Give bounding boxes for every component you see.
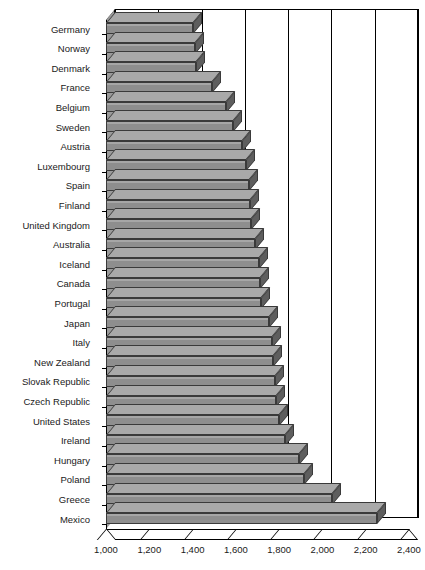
- category-label: Spain: [66, 180, 90, 191]
- category-tick: [102, 113, 106, 114]
- category-label: Czech Republic: [23, 396, 90, 407]
- category-tick: [102, 524, 106, 525]
- bar-top-face: [106, 208, 260, 219]
- category-tick: [102, 250, 106, 251]
- category-tick: [102, 132, 106, 133]
- bar-top-face: [106, 91, 235, 102]
- category-tick: [102, 93, 106, 94]
- category-label: Hungary: [54, 455, 90, 466]
- category-label: Germany: [51, 24, 90, 35]
- value-tick-label: 1,200: [127, 544, 171, 555]
- category-label: Ireland: [61, 435, 90, 446]
- gridline-x: [375, 9, 376, 518]
- value-tick-label: 1,000: [84, 544, 128, 555]
- category-tick: [102, 348, 106, 349]
- category-label: Greece: [59, 494, 90, 505]
- bar-top-face: [106, 189, 259, 200]
- category-label: Italy: [73, 337, 90, 348]
- bar-top-face: [106, 12, 202, 23]
- bar-top-face: [106, 51, 205, 62]
- category-tick: [102, 54, 106, 55]
- category-tick: [102, 466, 106, 467]
- category-label: Portugal: [55, 298, 90, 309]
- bar-top-face: [106, 287, 270, 298]
- category-tick: [102, 172, 106, 173]
- category-tick: [102, 485, 106, 486]
- value-tick-label: 1,400: [171, 544, 215, 555]
- bar-top-face: [106, 169, 258, 180]
- bar-front-face: [106, 513, 377, 524]
- bar-top-face: [106, 149, 255, 160]
- bar-top-face: [106, 385, 285, 396]
- value-tick-label: 1,600: [214, 544, 258, 555]
- category-label: Japan: [64, 318, 90, 329]
- category-tick: [102, 152, 106, 153]
- category-axis-labels: GermanyNorwayDenmarkFranceBelgiumSwedenA…: [0, 0, 94, 570]
- category-tick: [102, 289, 106, 290]
- category-label: France: [60, 82, 90, 93]
- bar-top-face: [106, 326, 281, 337]
- category-label: Australia: [53, 239, 90, 250]
- category-label: Luxembourg: [37, 161, 90, 172]
- category-label: Denmark: [51, 63, 90, 74]
- bar-top-face: [106, 71, 221, 82]
- bar-top-face: [106, 228, 265, 239]
- category-label: Mexico: [60, 514, 90, 525]
- value-tick-label: 2,000: [300, 544, 344, 555]
- gridline-x: [288, 9, 289, 518]
- category-tick: [102, 446, 106, 447]
- gridline-x: [418, 9, 419, 518]
- category-label: United States: [33, 416, 90, 427]
- category-tick: [102, 74, 106, 75]
- bar-top-face: [106, 483, 341, 494]
- category-tick: [102, 191, 106, 192]
- bar-top-face: [106, 463, 313, 474]
- category-label: United Kingdom: [22, 220, 90, 231]
- bar-top-face: [106, 306, 279, 317]
- category-tick: [102, 387, 106, 388]
- gridline-x: [331, 9, 332, 518]
- category-tick: [102, 407, 106, 408]
- category-label: Poland: [60, 474, 90, 485]
- category-tick: [102, 426, 106, 427]
- category-label: Austria: [60, 141, 90, 152]
- category-label: Iceland: [59, 259, 90, 270]
- bar-top-face: [106, 443, 308, 454]
- category-label: Norway: [58, 43, 90, 54]
- bar-top-face: [106, 110, 242, 121]
- plot-floor: [106, 529, 418, 540]
- category-tick: [102, 328, 106, 329]
- category-tick: [102, 34, 106, 35]
- category-label: Belgium: [56, 102, 90, 113]
- value-tick-label: 2,200: [344, 544, 388, 555]
- category-tick: [102, 211, 106, 212]
- bar-top-face: [106, 130, 252, 141]
- value-tick: [97, 529, 107, 540]
- category-label: Slovak Republic: [22, 376, 90, 387]
- category-label: Finland: [59, 200, 90, 211]
- value-tick-label: 2,400: [387, 544, 425, 555]
- category-label: Canada: [57, 278, 90, 289]
- category-label: Sweden: [56, 122, 90, 133]
- bar-top-face: [106, 267, 269, 278]
- bar-top-face: [106, 345, 282, 356]
- category-tick: [102, 505, 106, 506]
- bar-top-face: [106, 404, 288, 415]
- bar-top-face: [106, 424, 294, 435]
- category-label: New Zealand: [34, 357, 90, 368]
- category-tick: [102, 270, 106, 271]
- category-tick: [102, 230, 106, 231]
- category-tick: [102, 368, 106, 369]
- value-tick-label: 1,800: [257, 544, 301, 555]
- bar-top-face: [106, 502, 386, 513]
- bar-top-face: [106, 365, 284, 376]
- bar-top-face: [106, 247, 268, 258]
- bar-top-face: [106, 32, 204, 43]
- category-tick: [102, 309, 106, 310]
